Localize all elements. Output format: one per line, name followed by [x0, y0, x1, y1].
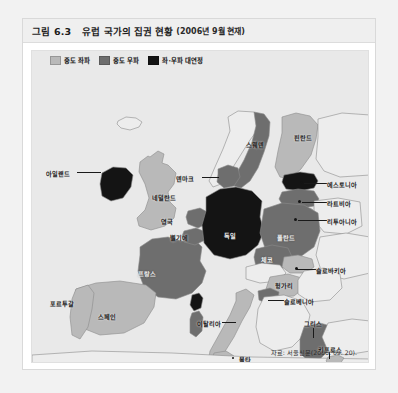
map-label-germany: 독일 [224, 231, 236, 240]
page-title: 유럽 국가의 집권 현황 [82, 24, 173, 38]
leader-slovenia [268, 300, 284, 301]
leader-latvia [302, 202, 327, 203]
map-label-slovakia: 슬로바키아 [316, 266, 346, 275]
figure-container: 그림 6.3 유럽 국가의 집권 현황 (2006년 9월 현재) 중도 좌파 … [22, 18, 376, 370]
map-label-latvia: 라트비아 [327, 199, 351, 208]
figure-date: (2006년 9월 현재) [176, 25, 245, 36]
europe-map: 아일랜드 영국 포르투갈 스페인 프랑스 벨기에 네덜란드 덴마크 독일 이탈리… [32, 51, 368, 362]
figure-title-bar: 그림 6.3 유럽 국가의 집권 현황 (2006년 9월 현재) [23, 19, 375, 43]
figure-number: 그림 6.3 [32, 24, 71, 38]
map-legend: 중도 좌파 중도 우파 좌·우파 대연정 [50, 56, 203, 65]
leader-italy [222, 322, 236, 323]
map-label-slovenia: 슬로베니아 [284, 297, 314, 306]
map-label-malta: 몰타 [239, 355, 251, 363]
leader-ireland [77, 172, 101, 173]
legend-label-center-left: 중도 좌파 [64, 56, 90, 65]
map-label-italy: 이탈리아 [197, 319, 221, 328]
legend-label-center-right: 중도 우파 [113, 56, 139, 65]
legend-label-grand-coalition: 좌·우파 대연정 [162, 56, 203, 65]
leader-lithuania [298, 220, 327, 221]
map-label-france: 프랑스 [138, 269, 156, 278]
map-label-denmark: 덴마크 [176, 174, 194, 183]
map-label-belgium: 벨기에 [170, 233, 188, 242]
leader-denmark [202, 177, 219, 178]
map-label-poland: 폴란드 [277, 233, 295, 242]
source-note: 자료: 서울신문(2006. 09. 20). [271, 348, 357, 357]
map-label-lithuania: 리투아니아 [327, 217, 357, 226]
dot-slovakia [295, 267, 298, 270]
leader-slovakia [297, 269, 316, 270]
map-label-cyprus: 키프로스 [318, 345, 342, 354]
dot-estonia [300, 181, 303, 184]
map-label-portugal: 포르투갈 [50, 299, 74, 308]
map-label-uk: 영국 [161, 217, 173, 226]
map-label-sweden: 스웨덴 [246, 140, 264, 149]
legend-swatch-center-right [99, 56, 110, 65]
map-label-netherlands: 네덜란드 [152, 193, 176, 202]
legend-swatch-grand-coalition [148, 56, 159, 65]
leader-greece [313, 328, 314, 338]
map-label-czech: 체코 [261, 255, 273, 264]
island-corsica [190, 293, 203, 311]
map-label-spain: 스페인 [98, 312, 116, 321]
legend-item-center-left: 중도 좌파 [50, 56, 90, 65]
europe-map-svg [32, 51, 369, 363]
legend-item-grand-coalition: 좌·우파 대연정 [148, 56, 203, 65]
dot-latvia [298, 200, 301, 203]
map-label-ireland: 아일랜드 [46, 169, 70, 178]
dot-malta [232, 357, 234, 359]
map-label-estonia: 에스토니아 [327, 180, 357, 189]
legend-item-center-right: 중도 우파 [99, 56, 139, 65]
legend-swatch-center-left [50, 56, 61, 65]
leader-estonia [304, 183, 327, 184]
map-panel: 중도 좌파 중도 우파 좌·우파 대연정 [31, 50, 369, 363]
map-label-finland: 핀란드 [294, 133, 312, 142]
country-russia-nw [316, 113, 369, 177]
map-label-hungary: 헝가리 [275, 281, 293, 290]
map-label-greece: 그리스 [304, 319, 322, 328]
dot-lithuania [294, 218, 297, 221]
